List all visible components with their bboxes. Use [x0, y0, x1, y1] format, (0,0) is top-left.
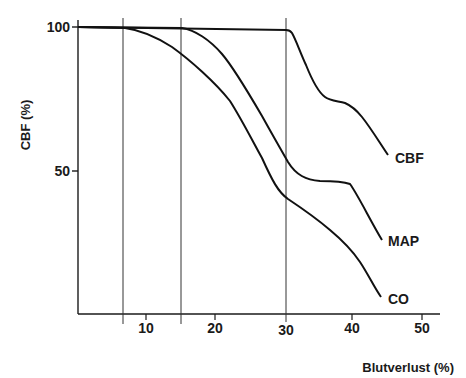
cbf-label: CBF — [395, 150, 424, 166]
x-tick-label-40: 40 — [344, 320, 360, 336]
x-tick-label-10: 10 — [138, 320, 154, 336]
y-axis-label: CBF (%) — [18, 100, 33, 151]
map-curve — [78, 27, 382, 240]
cbf-curve — [78, 27, 388, 155]
y-tick-label-100: 100 — [47, 19, 71, 35]
x-axis-label: Blutverlust (%) — [362, 360, 454, 375]
co-label: CO — [388, 291, 409, 307]
x-tick-label-50: 50 — [414, 320, 430, 336]
map-label: MAP — [388, 233, 419, 249]
chart: 100 50 10 20 30 40 50 CBF MAP CO CBF (%)… — [0, 0, 466, 378]
y-tick-label-50: 50 — [54, 163, 70, 179]
x-tick-label-30: 30 — [278, 322, 294, 338]
x-tick-label-20: 20 — [207, 320, 223, 336]
